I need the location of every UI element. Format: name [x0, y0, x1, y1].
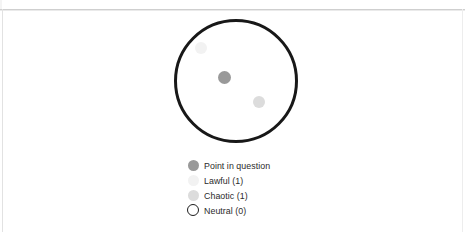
legend-marker-cell: [186, 158, 204, 173]
legend-marker-cell: [186, 203, 204, 218]
neutral-boundary-circle: [174, 19, 298, 143]
legend-label-lawful: Lawful (1): [204, 175, 243, 186]
legend-label-neutral: Neutral (0): [204, 205, 246, 216]
legend-marker-cell: [186, 173, 204, 188]
legend-label-chaotic: Chaotic (1): [204, 190, 248, 201]
legend-item-point-in-question[interactable]: Point in question: [186, 158, 316, 173]
scatter-plot-area: [174, 19, 298, 143]
legend-item-lawful[interactable]: Lawful (1): [186, 173, 316, 188]
legend-marker-cell: [186, 188, 204, 203]
data-point-lawful[interactable]: [195, 42, 207, 54]
legend-item-chaotic[interactable]: Chaotic (1): [186, 188, 316, 203]
legend-item-neutral[interactable]: Neutral (0): [186, 203, 316, 218]
outline-circle-icon: [187, 204, 199, 216]
legend: Point in question Lawful (1) Chaotic (1)…: [186, 158, 316, 218]
page-top-border-shadow: [0, 10, 465, 11]
page-left-border: [2, 9, 3, 232]
data-point-chaotic[interactable]: [253, 96, 265, 108]
data-point-point-in-question[interactable]: [218, 71, 231, 84]
filled-circle-icon: [188, 190, 199, 201]
filled-circle-icon: [188, 160, 199, 171]
chart-page: Point in question Lawful (1) Chaotic (1)…: [0, 0, 465, 232]
legend-label-point-in-question: Point in question: [204, 160, 270, 171]
page-right-border: [462, 9, 463, 232]
filled-circle-icon: [188, 175, 199, 186]
